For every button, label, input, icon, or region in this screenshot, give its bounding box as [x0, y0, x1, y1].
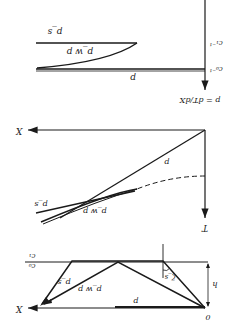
label-x-middle: X	[15, 126, 23, 136]
label-equation: p = dT/dX	[179, 96, 220, 105]
top-panel: p_s p_w p p c₁⁻¹ c₀⁻¹ p = dT/dX	[36, 0, 223, 105]
bottom-panel: c₁ c₀ X p p_s p_w p ζ_s h 0	[15, 244, 217, 322]
label-t: T	[201, 223, 208, 233]
label-c1: c₁	[28, 252, 35, 260]
label-c0: c₀	[28, 262, 35, 270]
label-c1-inv: c₁⁻¹	[209, 39, 222, 47]
p-ray-middle	[60, 130, 205, 218]
label-ps-bottom: p_s	[57, 278, 70, 287]
label-origin: 0	[205, 313, 210, 322]
label-p-middle: p	[164, 158, 169, 167]
label-ps-top: p_s	[47, 26, 62, 37]
dashed-curve	[137, 176, 205, 189]
label-pwp-top: p_w p	[66, 46, 93, 57]
label-pwp-middle: p_w p	[83, 207, 107, 216]
label-p-bottom: p	[133, 297, 138, 306]
label-zeta: ζ_s	[164, 273, 175, 281]
label-p-top: p	[130, 73, 136, 83]
h-arrow-down	[206, 302, 210, 307]
label-x-bottom: X	[15, 304, 23, 314]
middle-panel: X T p p_s p_w p	[15, 126, 208, 233]
label-c0-inv: c₀⁻¹	[209, 65, 222, 73]
label-ps-middle: p_s	[34, 200, 47, 209]
label-pwp-bottom: p_w p	[78, 285, 102, 294]
h-arrow-up	[206, 263, 210, 268]
ray-slowness-diagram: p_s p_w p p c₁⁻¹ c₀⁻¹ p = dT/dX X T p p_…	[0, 0, 232, 333]
label-h: h	[212, 280, 217, 289]
